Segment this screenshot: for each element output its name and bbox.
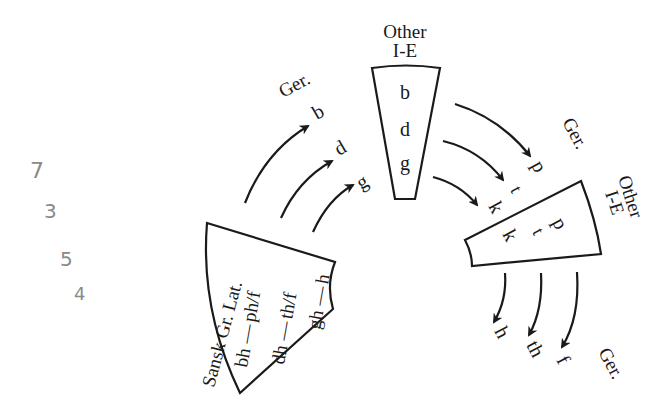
note-4: 4	[74, 283, 85, 304]
bottom-ger-label: Ger.	[594, 344, 628, 382]
bottom-ger-item-h: h	[490, 323, 514, 342]
arrow-gh-to-g	[313, 185, 353, 232]
top-ger-item-d: d	[330, 135, 350, 159]
top-box-item-d: d	[400, 118, 410, 140]
arrows-to-bottom-ger	[494, 272, 577, 347]
left-sansk-gr-lat-group: Sansk Gr. Lat. bh — ph/f dh — th/f gh — …	[198, 223, 335, 393]
right-other-ie-group: p t k Other I-E	[465, 173, 648, 266]
top-box-item-b: b	[400, 81, 410, 103]
top-ger-item-g: g	[352, 169, 372, 194]
note-3: 3	[44, 199, 57, 223]
note-7: 7	[30, 158, 44, 183]
handwritten-notes: 7 3 5 4	[30, 158, 85, 304]
arrow-p-to-f	[562, 272, 577, 347]
right-ger-item-k: k	[484, 198, 508, 217]
grimms-law-diagram: 7 3 5 4 Other I-E b d g Sansk Gr. Lat. b…	[0, 0, 664, 416]
right-ger-item-p: p	[527, 157, 552, 177]
arrow-g-to-k	[433, 177, 477, 205]
arrow-dh-to-d	[281, 161, 332, 218]
right-ger-item-t: t	[506, 182, 526, 196]
arrow-d-to-t	[443, 141, 503, 180]
note-5: 5	[60, 247, 73, 271]
top-box-label-line1: Other	[383, 21, 427, 42]
bottom-ger-item-th: th	[522, 337, 549, 361]
top-ger-label: Ger.	[275, 68, 313, 102]
arrow-bh-to-b	[245, 126, 308, 203]
bottom-ger-group: h th f Ger.	[490, 323, 628, 383]
top-box-item-g: g	[400, 152, 410, 175]
top-other-ie-group: Other I-E b d g	[372, 21, 440, 199]
arrow-k-to-h	[494, 273, 505, 322]
arrow-t-to-th	[529, 273, 541, 335]
right-box-shape	[465, 181, 601, 266]
top-ger-group: Ger. b d g	[275, 68, 372, 194]
top-box-label-line2: I-E	[393, 40, 417, 61]
right-ger-label: Ger.	[558, 114, 592, 152]
top-ger-item-b: b	[308, 99, 328, 123]
bottom-ger-item-f: f	[552, 352, 575, 369]
